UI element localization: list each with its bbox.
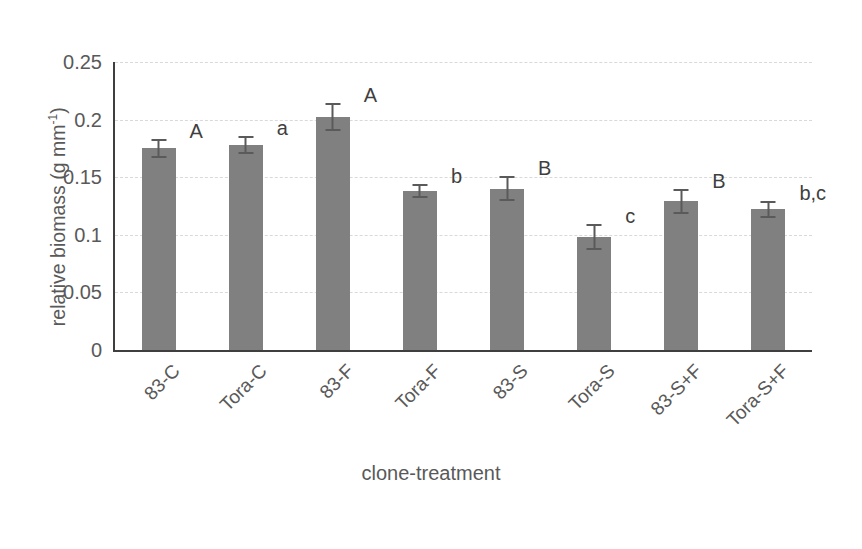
error-bar: [325, 103, 340, 131]
x-tick-label-text: Tora-F: [391, 360, 445, 414]
x-axis-title: clone-treatment: [0, 462, 862, 485]
error-bar-cap-bottom: [500, 199, 515, 201]
error-bar: [500, 176, 515, 201]
y-tick-label: 0.05: [20, 281, 102, 304]
bar: [229, 145, 263, 350]
significance-letter: c: [625, 205, 635, 228]
bar-group: b,c: [725, 62, 812, 350]
bar-group: B: [638, 62, 725, 350]
error-bar-cap-top: [587, 224, 602, 226]
x-tick-label-text: 83-C: [139, 360, 184, 405]
error-bar-cap-top: [151, 139, 166, 141]
error-bar-cap-top: [674, 189, 689, 191]
error-bar-stem: [593, 224, 595, 249]
x-tick-label-text: 83-F: [315, 360, 358, 403]
error-bar: [587, 224, 602, 249]
error-bar-cap-bottom: [325, 129, 340, 131]
bar-group: b: [376, 62, 463, 350]
bar-chart-figure: relative biomass (g mm-1) 00.050.10.150.…: [0, 0, 862, 549]
x-tick-label-text: Tora-C: [215, 360, 271, 416]
significance-letter: a: [277, 116, 288, 139]
y-tick-label: 0.25: [20, 51, 102, 74]
y-tick-label: 0: [20, 339, 102, 362]
error-bar-stem: [506, 176, 508, 201]
bar-group: c: [551, 62, 638, 350]
error-bar-cap-bottom: [412, 196, 427, 198]
bar-group: B: [464, 62, 551, 350]
significance-letter: A: [190, 120, 203, 143]
error-bar-cap-bottom: [151, 156, 166, 158]
bar-group: a: [202, 62, 289, 350]
x-tick-label-text: 83-S+F: [647, 360, 707, 420]
bar: [664, 201, 698, 350]
x-tick-label-text: Tora-S: [565, 360, 620, 415]
significance-letter: B: [712, 169, 725, 192]
error-bar-stem: [332, 103, 334, 131]
significance-letter: b: [451, 165, 462, 188]
y-tick-label: 0.2: [20, 108, 102, 131]
significance-letter: b,c: [799, 182, 826, 205]
bar-group: A: [115, 62, 202, 350]
x-axis-tick-labels: 83-CTora-C83-FTora-F83-STora-S83-S+FTora…: [113, 352, 810, 462]
y-tick-label: 0.1: [20, 223, 102, 246]
y-tick-label: 0.15: [20, 166, 102, 189]
error-bar-stem: [680, 189, 682, 214]
error-bar-cap-top: [325, 103, 340, 105]
error-bar-cap-bottom: [674, 212, 689, 214]
bar: [751, 209, 785, 350]
bar-group: A: [289, 62, 376, 350]
bar: [577, 237, 611, 350]
error-bar-cap-top: [761, 201, 776, 203]
error-bar: [674, 189, 689, 214]
x-tick-label-text: 83-S: [489, 360, 533, 404]
error-bar-cap-bottom: [761, 216, 776, 218]
error-bar: [238, 136, 253, 154]
bar-series: AaAbBcBb,c: [115, 62, 812, 350]
error-bar-cap-top: [238, 136, 253, 138]
plot-area: AaAbBcBb,c: [113, 62, 812, 352]
x-tick-label-text: Tora-S+F: [723, 360, 794, 431]
error-bar: [412, 184, 427, 198]
error-bar-cap-top: [412, 184, 427, 186]
error-bar: [151, 139, 166, 157]
significance-letter: A: [364, 84, 377, 107]
error-bar-cap-bottom: [587, 248, 602, 250]
error-bar-cap-bottom: [238, 152, 253, 154]
bar: [316, 117, 350, 350]
bar: [403, 191, 437, 350]
error-bar-cap-top: [500, 176, 515, 178]
bar: [490, 189, 524, 350]
error-bar: [761, 201, 776, 217]
bar: [142, 148, 176, 350]
significance-letter: B: [538, 157, 551, 180]
